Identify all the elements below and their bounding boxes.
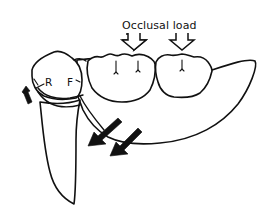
occlusal-load-arrow-2-shape	[170, 33, 194, 50]
occlusal-load-label: Occlusal load	[122, 19, 197, 32]
occlusal-load-arrow-1-shape	[122, 33, 146, 50]
denture-rotation-diagram: R F Occlusal load	[0, 0, 269, 215]
rest-label: R	[45, 76, 52, 88]
fulcrum-label: F	[67, 76, 73, 88]
artificial-tooth-1	[87, 54, 155, 102]
abutment-tooth-root	[40, 100, 80, 204]
abutment-tooth-crown	[32, 51, 82, 99]
rotation-arrow	[22, 86, 32, 104]
